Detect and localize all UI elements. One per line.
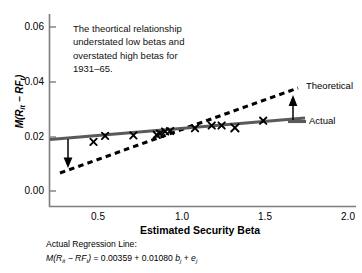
commentary-annotation: The theortical relationship understated … bbox=[73, 22, 184, 76]
commentary-line-2: understated low betas and bbox=[73, 35, 184, 48]
y-tick-label-0.00: 0.00 bbox=[14, 185, 44, 197]
caption-equation: M(Rit − RFt) = 0.00359 + 0.01080 bj + ej bbox=[46, 252, 197, 265]
actual-line bbox=[50, 118, 305, 140]
y-axis-title: M(Rit − RFt) bbox=[14, 57, 25, 147]
caption-title: Actual Regression Line: bbox=[46, 238, 197, 251]
commentary-line-3: overstated high betas for bbox=[73, 49, 184, 62]
regression-caption: Actual Regression Line: M(Rit − RFt) = 0… bbox=[46, 238, 197, 265]
down-arrow-annotation bbox=[64, 139, 73, 168]
y-tick-label-0.06: 0.06 bbox=[14, 21, 44, 33]
chart-figure: 0.06 0.04 0.02 0.00 0.5 1.0 1.5 2.0 M(Ri… bbox=[0, 0, 362, 273]
commentary-line-1: The theortical relationship bbox=[73, 22, 184, 35]
x-tick-label-0.5: 0.5 bbox=[81, 211, 115, 223]
x-tick-label-1.5: 1.5 bbox=[248, 211, 282, 223]
commentary-line-4: 1931–65. bbox=[73, 62, 184, 75]
data-point bbox=[90, 139, 96, 145]
scatter-markers bbox=[90, 118, 266, 146]
x-tick-label-2.0: 2.0 bbox=[331, 211, 362, 223]
x-axis-title: Estimated Security Beta bbox=[120, 224, 280, 236]
theoretical-line bbox=[60, 88, 298, 173]
series-label-actual: Actual bbox=[309, 115, 335, 126]
x-tick-label-1.0: 1.0 bbox=[165, 211, 199, 223]
series-label-theoretical: Theoretical bbox=[306, 80, 353, 91]
